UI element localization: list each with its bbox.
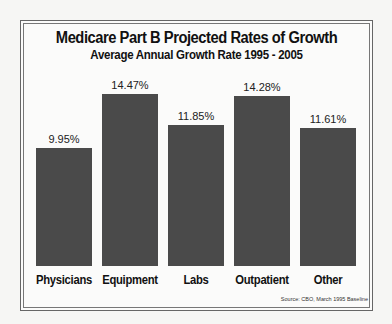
bar-labs — [168, 125, 224, 266]
bar-other — [300, 128, 356, 266]
plot-area: 9.95% Physicians 14.47% Equipment 11.85%… — [0, 0, 392, 324]
value-label-equipment: 14.47% — [95, 79, 165, 91]
category-label-other: Other — [294, 273, 362, 287]
bar-outpatient — [234, 96, 290, 266]
value-label-outpatient: 14.28% — [227, 81, 297, 93]
value-label-other: 11.61% — [293, 113, 363, 125]
category-label-outpatient: Outpatient — [228, 273, 296, 287]
category-label-physicians: Physicians — [30, 273, 98, 287]
source-note: Source: CBO, March 1995 Baseline — [281, 296, 368, 302]
value-label-labs: 11.85% — [161, 110, 231, 122]
bar-physicians — [36, 148, 92, 266]
category-label-equipment: Equipment — [96, 273, 164, 287]
category-label-labs: Labs — [162, 273, 230, 287]
bar-equipment — [102, 94, 158, 266]
value-label-physicians: 9.95% — [29, 133, 99, 145]
